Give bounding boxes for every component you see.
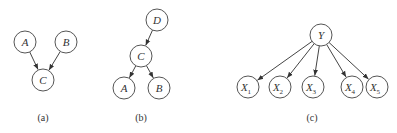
node-b: B xyxy=(55,31,77,53)
edge-y-to-x3 xyxy=(315,46,320,76)
edge-a-to-c xyxy=(30,52,38,70)
node-x5: X5 xyxy=(366,76,388,98)
edge-y-to-x1 xyxy=(257,41,312,80)
edge-y-to-x5 xyxy=(329,42,369,79)
caption-b: (b) xyxy=(135,112,147,124)
node-c: C xyxy=(32,69,54,91)
diagram-b: DCAB(b) xyxy=(113,9,170,124)
edge-c-to-a xyxy=(129,66,135,78)
node-x3: X3 xyxy=(302,76,324,98)
node-label: B xyxy=(63,36,70,48)
node-label: C xyxy=(137,50,145,62)
node-x2: X2 xyxy=(269,76,291,98)
node-label: A xyxy=(21,36,29,48)
caption-a: (a) xyxy=(37,112,48,124)
node-label: C xyxy=(39,74,47,86)
node-x4: X4 xyxy=(341,76,363,98)
edge-b-to-c xyxy=(49,51,60,70)
node-a: A xyxy=(113,77,135,99)
bayesian-network-figure: ABC(a) DCAB(b) YX1X2X3X4X5(c) xyxy=(0,0,397,133)
edge-d-to-c xyxy=(146,30,153,45)
node-label: B xyxy=(156,82,163,94)
node-d: D xyxy=(146,9,168,31)
diagram-a: ABC(a) xyxy=(14,31,77,124)
edge-c-to-b xyxy=(146,66,153,78)
node-c: C xyxy=(130,45,152,67)
edge-y-to-x2 xyxy=(287,44,314,78)
node-label: A xyxy=(120,82,128,94)
node-b: B xyxy=(148,77,170,99)
node-label: D xyxy=(152,14,161,26)
node-a: A xyxy=(14,31,36,53)
diagram-c: YX1X2X3X4X5(c) xyxy=(237,24,388,124)
node-y: Y xyxy=(310,24,332,46)
node-x1: X1 xyxy=(237,76,259,98)
caption-c: (c) xyxy=(306,112,317,124)
